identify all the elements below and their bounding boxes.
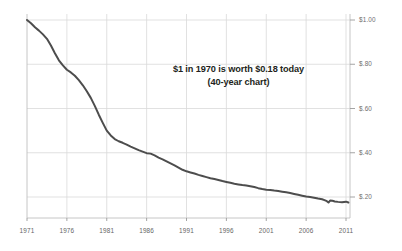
y-axis-tick-label: $.40 — [359, 149, 372, 156]
x-axis-tick-label: 1991 — [173, 227, 201, 234]
y-axis-tick-label: $.60 — [359, 105, 372, 112]
x-axis-tick-label: 2011 — [332, 227, 360, 234]
inflation-line-chart — [0, 0, 402, 251]
x-axis-tick-label: 1971 — [13, 227, 41, 234]
x-axis-tick-label: 1981 — [93, 227, 121, 234]
x-axis-tick-label: 2001 — [252, 227, 280, 234]
y-axis-tick-label: $1.00 — [359, 16, 376, 23]
data-line-group — [27, 20, 348, 203]
chart-container: $1 in 1970 is worth $0.18 today (40-year… — [0, 0, 402, 251]
x-axis-tick-label: 1996 — [212, 227, 240, 234]
axis-lines-group — [27, 14, 350, 218]
y-axis-tick-label: $.80 — [359, 60, 372, 67]
x-axis-tick-label: 1976 — [53, 227, 81, 234]
x-axis-tick-label: 1986 — [133, 227, 161, 234]
gridlines-group — [27, 14, 350, 218]
x-axis-tick-label: 2006 — [292, 227, 320, 234]
y-axis-tick-label: $.20 — [359, 193, 372, 200]
data-series-line — [27, 20, 348, 203]
